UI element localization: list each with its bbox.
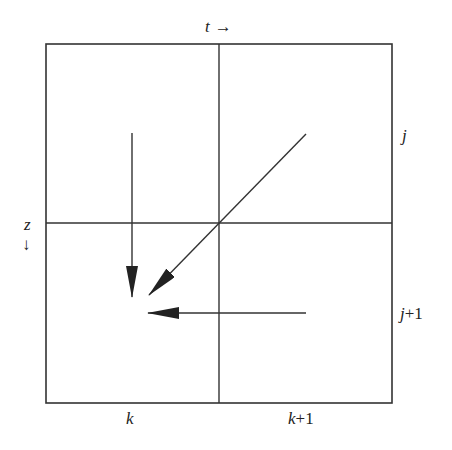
time-axis-label: t→ — [205, 17, 232, 36]
depth-axis-arrow-icon: ↓ — [22, 235, 31, 254]
row-label-j-plus-1: j+1 — [398, 304, 423, 323]
depth-axis-label: z — [23, 215, 31, 234]
column-label-k: k — [126, 409, 134, 428]
row-label-j: j — [400, 126, 407, 145]
grid-diagram: t→ z ↓ j j+1 k k+1 — [0, 0, 452, 450]
column-label-k-plus-1: k+1 — [288, 409, 314, 428]
diagonal-arrow-icon — [149, 134, 306, 295]
